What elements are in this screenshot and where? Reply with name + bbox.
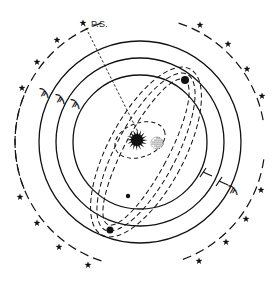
star-ring-arc [179,23,264,125]
star-icon [197,21,204,28]
sun-core [131,134,143,146]
star-icon [54,36,61,43]
star-icon [223,238,230,245]
star-icon [225,40,232,47]
orbital-diagram: P.S. ϡ ϡ ϡ ϡ [0,0,278,281]
star-icon [259,92,266,99]
planet-small-lower [126,194,130,198]
star-icon [196,257,203,264]
dotted-disc-icon [151,137,164,149]
ps-label: P.S. [91,19,108,29]
star-icon [56,243,63,250]
left-symbol-inner: ϡ [69,94,80,110]
left-symbol-outer: ϡ [38,83,49,99]
star-icon [243,215,250,222]
diagram-canvas [0,0,278,281]
tick-inner-bar [203,172,212,176]
sun-icon [127,130,148,151]
star-icon [244,65,251,72]
ps-pointer-line [84,24,138,132]
star-icon [19,84,26,91]
planet-lower-left [107,227,114,234]
star-ring-arc [15,95,101,261]
star-ring-arc [179,159,264,261]
orbit-tick-marks [200,168,228,186]
star-icon [85,261,92,268]
planet-upper-right [181,76,189,84]
left-symbol-middle: ϡ [54,89,65,105]
star-icon [34,58,41,65]
star-icon [80,19,87,26]
star-icon [258,186,265,193]
star-icon [34,219,41,226]
star-icon [17,193,24,200]
